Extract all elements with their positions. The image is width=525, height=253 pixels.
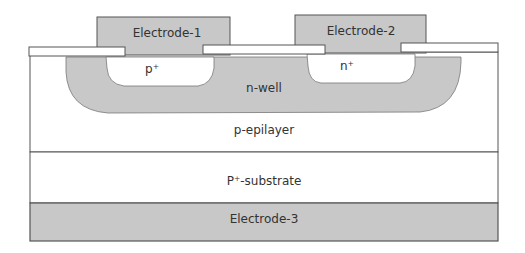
- n-plus-label: n⁺: [340, 59, 354, 73]
- electrode-1-label: Electrode-1: [133, 26, 202, 40]
- n-well-label: n-well: [246, 81, 282, 95]
- electrode-3-label: Electrode-3: [230, 212, 299, 226]
- electrode-2-label: Electrode-2: [327, 24, 396, 38]
- n-plus-region: [307, 54, 415, 83]
- oxide-middle: [203, 45, 325, 54]
- p-epilayer-label: p-epilayer: [234, 123, 294, 137]
- oxide-right: [401, 43, 498, 52]
- p-substrate-label: P⁺-substrate: [227, 174, 302, 188]
- p-plus-label: p⁺: [145, 62, 159, 76]
- oxide-left: [29, 47, 125, 56]
- device-cross-section: Electrode-1 Electrode-2 p⁺ n⁺ n-well p-e…: [0, 0, 525, 253]
- p-plus-region: [106, 57, 214, 86]
